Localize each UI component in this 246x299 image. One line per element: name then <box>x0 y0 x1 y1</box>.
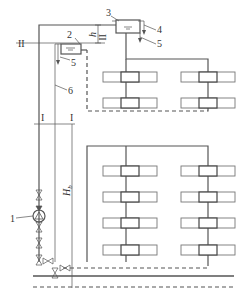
label-3: 3 <box>106 7 111 18</box>
upper-zone-radiators <box>103 46 235 108</box>
label-I-left: I <box>41 112 44 123</box>
label-6: 6 <box>68 85 73 96</box>
lower-zone-radiators <box>103 166 235 255</box>
upper-expansion-tank <box>116 20 140 33</box>
heating-diagram: 2 3 4 5 5 6 II II h I I Hb 1 <box>0 0 246 299</box>
label-5-lower: 5 <box>71 57 76 68</box>
label-h: h <box>87 32 98 37</box>
label-1: 1 <box>10 213 15 224</box>
label-4: 4 <box>157 24 162 35</box>
label-I-right: I <box>70 112 73 123</box>
valves <box>36 190 70 278</box>
label-II-left: II <box>18 38 25 49</box>
lower-expansion-tank <box>61 44 81 54</box>
label-II-right: II <box>97 34 108 41</box>
label-2: 2 <box>67 29 72 40</box>
label-5-upper: 5 <box>157 38 162 49</box>
